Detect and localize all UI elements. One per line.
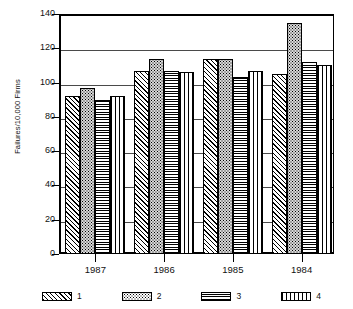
- cross-hatch-swatch: [201, 292, 231, 301]
- y-axis-tick-mark: [52, 14, 59, 15]
- x-axis-tick-label-1984: 1984: [277, 264, 327, 275]
- y-axis-tick-mark: [52, 117, 59, 118]
- legend-label: 3: [236, 291, 241, 301]
- bar-1984-series-4: [317, 65, 332, 254]
- x-axis-tick-label-1986: 1986: [139, 264, 189, 275]
- y-axis-tick-mark: [52, 254, 59, 255]
- x-axis: 1987198619851984: [59, 254, 334, 284]
- y-axis-tick-label: 0: [21, 249, 55, 258]
- legend-label: 4: [316, 291, 321, 301]
- stipple-dots-swatch: [122, 292, 152, 301]
- x-axis-tick-mark: [164, 254, 165, 262]
- y-axis-tick-mark: [52, 151, 59, 152]
- y-axis-tick-mark: [52, 48, 59, 49]
- bar-1987-series-2: [80, 88, 95, 254]
- y-axis-tick-label: 120: [21, 43, 55, 52]
- bar-1985-series-3: [233, 77, 248, 254]
- bar-1987-series-4: [110, 96, 125, 254]
- bar-1984-series-1: [272, 74, 287, 254]
- bar-1986-series-2: [149, 59, 164, 254]
- legend-item-2: 2: [122, 291, 162, 301]
- bars-layer: [59, 14, 334, 254]
- bar-1986-series-3: [164, 71, 179, 254]
- y-axis-tick-mark: [52, 185, 59, 186]
- legend: 1234: [42, 288, 322, 304]
- legend-item-1: 1: [42, 291, 82, 301]
- vertical-lines-swatch: [281, 292, 311, 301]
- y-axis-tick-label: 60: [21, 146, 55, 155]
- bar-1986-series-1: [134, 71, 149, 254]
- bar-1985-series-2: [218, 59, 233, 254]
- y-axis-tick-label: 20: [21, 215, 55, 224]
- y-axis-tick-label: 80: [21, 112, 55, 121]
- bar-1986-series-4: [179, 72, 194, 254]
- bar-1984-series-2: [287, 23, 302, 254]
- y-axis-tick-mark: [52, 83, 59, 84]
- legend-label: 1: [77, 291, 82, 301]
- bar-1985-series-4: [248, 71, 263, 254]
- x-axis-tick-label-1985: 1985: [208, 264, 258, 275]
- diagonal-hatch-swatch: [42, 292, 72, 301]
- y-axis-tick-label: 40: [21, 180, 55, 189]
- legend-label: 2: [157, 291, 162, 301]
- bar-1985-series-1: [203, 59, 218, 254]
- legend-item-4: 4: [281, 291, 321, 301]
- bar-1987-series-1: [65, 96, 80, 254]
- legend-item-3: 3: [201, 291, 241, 301]
- x-axis-tick-mark: [95, 254, 96, 262]
- y-axis-tick-labels: 020406080100120140: [17, 0, 55, 309]
- y-axis-tick-label: 100: [21, 78, 55, 87]
- bar-1984-series-3: [302, 62, 317, 254]
- bar-1987-series-3: [95, 100, 110, 254]
- bar-chart: Failures/10,000 Firms 020406080100120140…: [0, 0, 353, 309]
- x-axis-tick-mark: [233, 254, 234, 262]
- y-axis-tick-mark: [52, 220, 59, 221]
- x-axis-tick-mark: [302, 254, 303, 262]
- x-axis-tick-label-1987: 1987: [70, 264, 120, 275]
- y-axis-tick-label: 140: [21, 9, 55, 18]
